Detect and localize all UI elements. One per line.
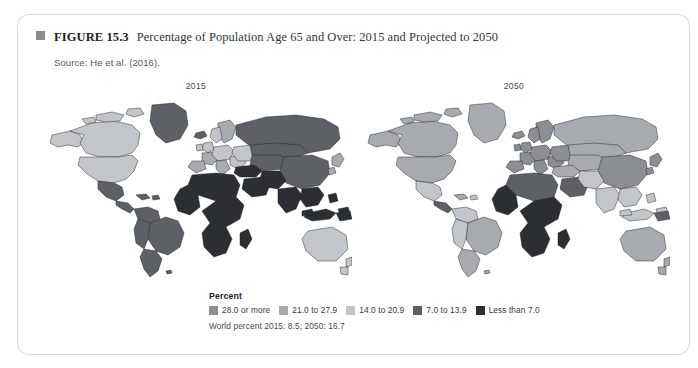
legend-item-0: 28.0 or more (209, 305, 270, 315)
world-map-2050 (358, 95, 670, 281)
legend-label-2: 14.0 to 20.9 (359, 305, 404, 315)
legend-item-3: 7.0 to 13.9 (413, 305, 466, 315)
map-panel-2050: 2050 (358, 81, 670, 281)
legend-item-1: 21.0 to 27.9 (279, 305, 337, 315)
world-map-2015: .c5{fill:#8b8f93} .c4{fill:#a7abaf} .c3{… (40, 95, 352, 281)
legend-label-0: 28.0 or more (222, 305, 270, 315)
legend-label-3: 7.0 to 13.9 (426, 305, 466, 315)
map-year-label-2050: 2050 (358, 81, 670, 91)
map-year-label-2015: 2015 (40, 81, 352, 91)
figure-title-row: FIGURE 15.3 Percentage of Population Age… (36, 30, 675, 45)
legend-title: Percent (209, 291, 629, 301)
legend-note: World percent 2015: 8.5; 2050: 16.7 (209, 321, 629, 331)
legend-swatch-icon-4 (476, 306, 485, 315)
legend-item-4: Less than 7.0 (476, 305, 540, 315)
square-bullet-icon (36, 31, 45, 40)
maps-area: 2015 .c5{fill:#8b8f93} .c4{fill:#a7abaf}… (32, 81, 677, 281)
figure-source: Source: He et al. (2016). (54, 57, 160, 68)
legend-swatch-icon-2 (346, 306, 355, 315)
legend-label-4: Less than 7.0 (489, 305, 540, 315)
map-panel-2015: 2015 .c5{fill:#8b8f93} .c4{fill:#a7abaf}… (40, 81, 352, 281)
map-legend: Percent 28.0 or more 21.0 to 27.9 14.0 t… (209, 291, 629, 331)
legend-label-1: 21.0 to 27.9 (292, 305, 337, 315)
page-title: Percentage of Population Age 65 and Over… (137, 30, 498, 45)
legend-item-2: 14.0 to 20.9 (346, 305, 404, 315)
legend-swatch-icon-0 (209, 306, 218, 315)
figure-number: FIGURE 15.3 (54, 30, 129, 45)
legend-swatch-icon-1 (279, 306, 288, 315)
legend-items: 28.0 or more 21.0 to 27.9 14.0 to 20.9 7… (209, 305, 629, 315)
legend-swatch-icon-3 (413, 306, 422, 315)
figure-card: FIGURE 15.3 Percentage of Population Age… (17, 14, 690, 355)
